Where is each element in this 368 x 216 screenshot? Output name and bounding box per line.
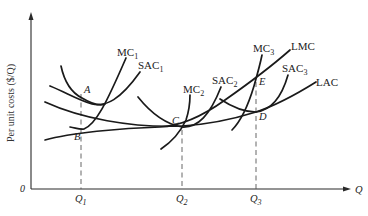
x-axis-label: Q [355,184,363,195]
label-lac: LAC [316,76,338,88]
tick-q3: Q3 [250,193,262,207]
point-b: B [74,131,81,142]
lmc-curve [45,50,290,140]
cost-curves-diagram: Per unit costs ($/Q) 0 Q Q1 Q2 Q3 MC1 SA… [0,0,368,216]
label-lmc: LMC [291,40,315,52]
label-mc2: MC2 [183,83,204,98]
point-c: C [172,115,180,126]
point-e: E [258,76,266,87]
sac1-left-branch [61,66,105,105]
sac2-curve [138,87,221,127]
origin-label: 0 [20,183,25,194]
y-axis-label: Per unit costs ($/Q) [5,64,17,142]
label-sac1: SAC1 [138,59,163,74]
label-mc3: MC3 [253,42,274,57]
y-axis-arrow-icon [29,12,34,20]
point-a: A [83,84,91,95]
point-d: D [258,111,267,122]
label-sac2: SAC2 [212,74,237,89]
tick-q2: Q2 [176,193,188,207]
x-axis-arrow-icon [343,187,351,192]
label-sac3: SAC3 [282,62,307,77]
tick-q1: Q1 [75,193,87,207]
label-mc1: MC1 [117,46,138,61]
